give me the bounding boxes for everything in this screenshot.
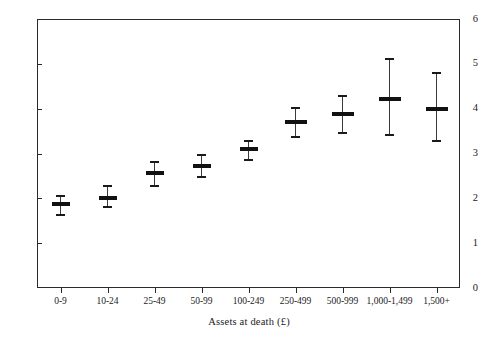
y-tick-label: 1 bbox=[452, 238, 478, 248]
x-tick-mark bbox=[202, 288, 203, 293]
y-tick-mark bbox=[37, 64, 42, 65]
error-bar-lower-cap bbox=[291, 136, 300, 138]
x-tick-label: 50-99 bbox=[190, 296, 212, 307]
y-tick-mark bbox=[37, 243, 42, 244]
x-tick-mark bbox=[155, 288, 156, 293]
error-bar-upper-cap bbox=[103, 185, 112, 187]
x-tick-label: 10-24 bbox=[96, 296, 118, 307]
x-tick-mark bbox=[437, 288, 438, 293]
error-bar-lower-cap bbox=[150, 185, 159, 187]
data-point-marker bbox=[332, 112, 354, 116]
error-bar-lower-cap bbox=[197, 176, 206, 178]
x-tick-label: 100-249 bbox=[233, 296, 265, 307]
data-point-marker bbox=[146, 171, 164, 175]
error-bar-lower-cap bbox=[56, 214, 65, 216]
error-bar-upper-cap bbox=[432, 72, 441, 74]
error-bar-lower-cap bbox=[103, 206, 112, 208]
data-point-marker bbox=[285, 120, 307, 124]
y-tick-mark bbox=[37, 154, 42, 155]
error-bar-upper-cap bbox=[385, 58, 394, 60]
x-tick-mark bbox=[61, 288, 62, 293]
x-tick-label: 250-499 bbox=[280, 296, 312, 307]
data-point-marker bbox=[426, 107, 448, 111]
data-point-marker bbox=[52, 202, 70, 206]
x-tick-label: 500-999 bbox=[327, 296, 359, 307]
data-point-marker bbox=[240, 147, 258, 151]
y-tick-label: 0 bbox=[452, 283, 478, 293]
x-axis-title: Assets at death (£) bbox=[37, 316, 461, 327]
chart-figure: Children per testator 0123456 0-910-2425… bbox=[0, 0, 478, 338]
x-tick-mark bbox=[390, 288, 391, 293]
x-tick-mark bbox=[296, 288, 297, 293]
error-bar-lower-cap bbox=[338, 132, 347, 134]
y-tick-mark bbox=[37, 198, 42, 199]
x-tick-label: 25-49 bbox=[143, 296, 165, 307]
error-bar-upper-cap bbox=[150, 161, 159, 163]
y-tick-label: 3 bbox=[452, 148, 478, 158]
x-tick-label: 0-9 bbox=[54, 296, 67, 307]
data-point-marker bbox=[99, 196, 117, 200]
error-bar-upper-cap bbox=[56, 195, 65, 197]
x-tick-mark bbox=[249, 288, 250, 293]
y-tick-label: 6 bbox=[452, 14, 478, 24]
error-bar-lower-cap bbox=[244, 159, 253, 161]
error-bar-upper-cap bbox=[338, 95, 347, 97]
y-tick-label: 2 bbox=[452, 193, 478, 203]
x-tick-mark bbox=[108, 288, 109, 293]
error-bar-upper-cap bbox=[244, 140, 253, 142]
error-bar-lower-cap bbox=[432, 140, 441, 142]
error-bar-lower-cap bbox=[385, 134, 394, 136]
x-tick-mark bbox=[343, 288, 344, 293]
x-tick-label: 1,000-1,499 bbox=[367, 296, 413, 307]
y-tick-label: 4 bbox=[452, 103, 478, 113]
error-bar-upper-cap bbox=[291, 107, 300, 109]
error-bar-upper-cap bbox=[197, 154, 206, 156]
y-tick-mark bbox=[37, 109, 42, 110]
y-tick-label: 5 bbox=[452, 58, 478, 68]
data-point-marker bbox=[379, 97, 401, 101]
data-point-marker bbox=[193, 164, 211, 168]
x-tick-label: 1,500+ bbox=[423, 296, 450, 307]
